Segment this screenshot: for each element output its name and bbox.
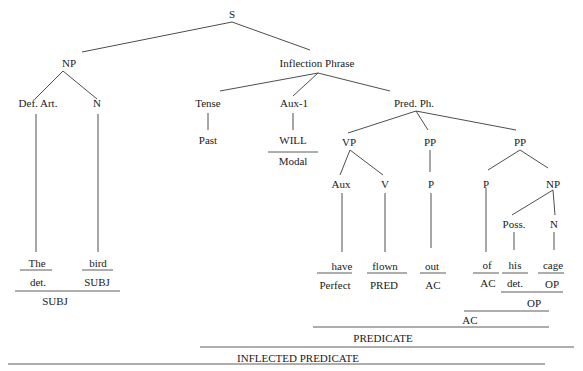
node-tense: Tense [195,97,221,109]
node-inflection-phrase: Inflection Phrase [280,57,355,69]
node-p-1: P [428,178,434,190]
function-op-cage: OP [545,278,559,290]
group-predicate: PREDICATE [353,332,412,344]
node-aux-1: Aux-1 [280,97,308,109]
group-inflected-predicate: INFLECTED PREDICATE [237,352,359,364]
word-cage: cage [543,259,563,271]
function-det-the: det. [30,276,46,288]
function-det-his: det. [507,277,523,289]
node-aux: Aux [332,178,351,190]
node-np-subject: NP [62,57,76,69]
function-perfect: Perfect [319,279,350,291]
word-have: have [332,260,353,272]
node-pp-2: PP [514,136,526,148]
node-pp-1: PP [424,136,436,148]
syntax-tree-diagram: S NP Def. Art. N Inflection Phrase Tense… [0,0,583,371]
node-will: WILL [279,134,306,146]
group-op: OP [527,297,541,309]
node-past: Past [199,134,217,146]
function-ac-out: AC [425,279,440,291]
tree-edges [0,0,583,371]
function-ac-of: AC [480,277,495,289]
word-the: The [28,257,45,269]
word-bird: bird [89,257,107,269]
node-n-subject: N [93,97,101,109]
node-poss: Poss. [503,218,526,230]
word-his: his [509,259,522,271]
group-subj: SUBJ [42,295,68,307]
node-n-object: N [550,218,558,230]
group-ac: AC [462,314,477,326]
node-pred-ph: Pred. Ph. [394,97,434,109]
node-p-2: P [483,178,489,190]
node-s: S [229,8,235,20]
node-vp: VP [342,136,356,148]
function-subj-bird: SUBJ [84,276,110,288]
function-pred: PRED [370,279,398,291]
word-of: of [482,259,491,271]
word-out: out [425,260,439,272]
node-np-object: NP [546,178,560,190]
node-modal: Modal [279,155,308,167]
node-def-art: Def. Art. [19,97,58,109]
node-v: V [381,178,389,190]
word-flown: flown [372,260,398,272]
